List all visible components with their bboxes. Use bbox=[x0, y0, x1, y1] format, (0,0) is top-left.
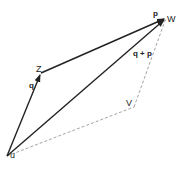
label-q: q bbox=[29, 81, 34, 90]
label-z: Z bbox=[36, 64, 42, 74]
label-w: W bbox=[167, 14, 176, 24]
vector-p bbox=[41, 19, 164, 73]
label-u: u bbox=[10, 150, 15, 160]
label-p: p bbox=[153, 9, 158, 18]
vector-diagram: p W Z q q + p V u bbox=[0, 0, 178, 169]
vector-q bbox=[7, 75, 40, 156]
label-q-plus-p: q + p bbox=[133, 49, 152, 58]
label-v: V bbox=[126, 98, 132, 108]
dashed-u-to-v bbox=[7, 107, 134, 156]
